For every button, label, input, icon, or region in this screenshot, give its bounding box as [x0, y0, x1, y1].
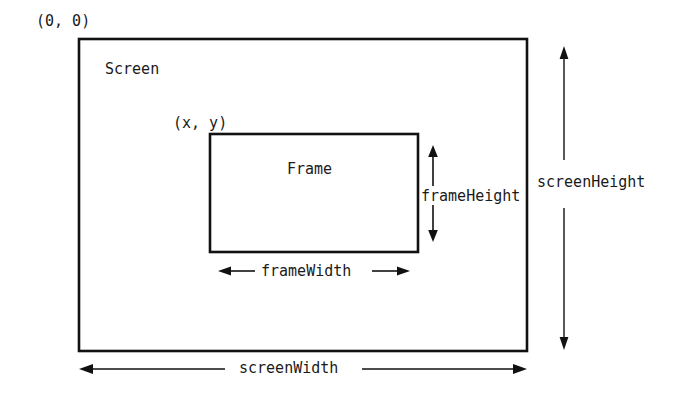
diagram-graphics: [0, 0, 692, 396]
screen-label: Screen: [105, 62, 159, 77]
frame-width-label: frameWidth: [261, 264, 351, 279]
screen-height-arrow: [560, 46, 569, 350]
frame-label: Frame: [287, 162, 332, 177]
screen-height-label: screenHeight: [537, 175, 645, 190]
origin-label: (0, 0): [36, 14, 90, 29]
frame-origin-label: (x, y): [173, 116, 227, 131]
screen-width-label: screenWidth: [239, 361, 338, 376]
frame-height-label: frameHeight: [421, 189, 520, 204]
diagram-canvas: (0, 0) Screen (x, y) Frame frameHeight s…: [0, 0, 692, 396]
frame-rectangle: [210, 134, 418, 252]
